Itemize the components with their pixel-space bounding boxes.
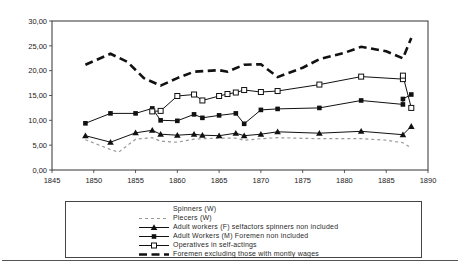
- legend-item-adult-workers-f: Adult workers (F) selfactors spinners no…: [66, 222, 421, 231]
- open-square-marker: [152, 243, 157, 248]
- legend-sample-spinners: [138, 204, 170, 213]
- legend-label-operatives: Operatives in self-actings: [173, 240, 257, 249]
- x-tick-label: 1890: [420, 176, 437, 185]
- x-tick-label: 1875: [294, 176, 311, 185]
- open-square-marker: [359, 74, 364, 79]
- open-square-marker: [400, 73, 405, 78]
- legend-label-adult-workers-m: Adult Workers (M) Foremen non included: [173, 231, 308, 240]
- y-tick-label: 10,00: [28, 116, 47, 125]
- legend-label-piecers: Piecers (W): [173, 213, 212, 222]
- legend-item-piecers: Piecers (W): [66, 213, 421, 222]
- open-square-marker: [275, 89, 280, 94]
- square-marker: [234, 111, 239, 116]
- open-square-marker: [217, 93, 222, 98]
- legend-item-operatives: Operatives in self-actings: [66, 240, 421, 249]
- bottom-divider: [2, 260, 458, 261]
- square-marker: [401, 102, 406, 107]
- x-tick-label: 1850: [85, 176, 102, 185]
- plot-border: [52, 21, 428, 170]
- x-tick-label: 1870: [253, 176, 270, 185]
- square-marker: [200, 116, 205, 121]
- legend-item-adult-workers-m: Adult Workers (M) Foremen non included: [66, 231, 421, 240]
- legend-label-adult-workers-f: Adult workers (F) selfactors spinners no…: [173, 222, 338, 231]
- open-square-marker: [317, 82, 322, 87]
- square-marker: [108, 111, 113, 116]
- open-square-marker: [409, 105, 414, 110]
- square-marker: [317, 106, 322, 111]
- x-tick-label: 1845: [44, 176, 61, 185]
- legend-sample-piecers: [138, 213, 170, 222]
- y-tick-label: 25,00: [28, 42, 47, 51]
- x-tick-label: 1880: [336, 176, 353, 185]
- y-tick-label: 15,00: [28, 91, 47, 100]
- open-square-marker: [175, 93, 180, 98]
- square-marker: [83, 121, 88, 126]
- square-marker: [217, 113, 222, 118]
- x-tick-label: 1855: [127, 176, 144, 185]
- square-marker: [158, 118, 163, 123]
- triangle-marker: [82, 133, 89, 139]
- triangle-marker: [408, 123, 415, 129]
- square-marker: [242, 122, 247, 127]
- y-tick-label: 5,00: [32, 141, 47, 150]
- square-marker: [192, 112, 197, 117]
- chart-legend: Spinners (W) Piecers (W) Adult workers (…: [65, 201, 422, 258]
- square-marker: [275, 107, 280, 112]
- y-tick-label: 0,00: [32, 166, 47, 175]
- legend-sample-adult-workers-f: [138, 222, 170, 231]
- square-marker: [152, 234, 157, 239]
- square-marker: [175, 119, 180, 124]
- x-tick-label: 1865: [211, 176, 228, 185]
- chart-figure: 0,005,0010,0015,0020,0025,0030,001845185…: [0, 0, 460, 279]
- legend-item-foremen: Foremen excluding those with montly wage…: [66, 249, 421, 258]
- square-marker: [133, 111, 138, 116]
- open-square-marker: [158, 108, 163, 113]
- square-marker: [409, 92, 414, 97]
- legend-sample-adult-workers-m: [138, 231, 170, 240]
- open-square-marker: [233, 90, 238, 95]
- triangle-marker: [149, 127, 156, 133]
- legend-item-spinners: Spinners (W): [66, 204, 421, 213]
- open-square-marker: [200, 98, 205, 103]
- open-square-marker: [258, 90, 263, 95]
- square-marker: [401, 97, 406, 102]
- open-square-marker: [150, 109, 155, 114]
- chart-plot-area: 0,005,0010,0015,0020,0025,0030,001845185…: [0, 0, 460, 198]
- line-legend-glyph: [138, 250, 170, 259]
- square-marker: [259, 108, 264, 113]
- series-line-1: [85, 138, 411, 152]
- legend-label-foremen: Foremen excluding those with montly wage…: [173, 249, 319, 258]
- x-tick-label: 1860: [169, 176, 186, 185]
- legend-label-spinners: Spinners (W): [173, 204, 216, 213]
- open-square-marker: [225, 92, 230, 97]
- legend-sample-operatives: [138, 240, 170, 249]
- legend-sample-foremen: [138, 249, 170, 258]
- open-square-marker: [242, 88, 247, 93]
- open-square-marker: [192, 92, 197, 97]
- y-tick-label: 20,00: [28, 66, 47, 75]
- square-marker: [359, 98, 364, 103]
- x-tick-label: 1885: [378, 176, 395, 185]
- triangle-marker: [233, 130, 240, 136]
- y-tick-label: 30,00: [28, 17, 47, 26]
